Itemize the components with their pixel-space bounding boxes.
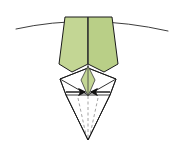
origami-diagram-figure xyxy=(0,0,174,155)
origami-illustration xyxy=(0,0,174,155)
green-body-right-panel xyxy=(88,17,118,72)
